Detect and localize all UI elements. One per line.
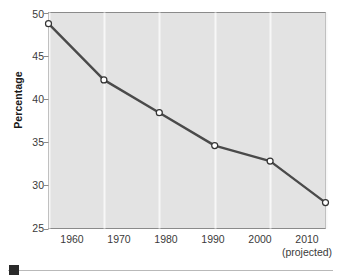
chart-figure: Percentage 50 45 40 35 30 25 1960 1970 1… bbox=[0, 0, 341, 279]
data-point-2010 bbox=[323, 200, 329, 206]
y-tick-marks bbox=[44, 14, 49, 230]
data-point-1970 bbox=[101, 77, 107, 83]
data-point-1980 bbox=[156, 110, 162, 116]
footer-divider bbox=[8, 270, 333, 271]
plot-panel bbox=[49, 13, 326, 229]
chart-plot-container: Percentage 50 45 40 35 30 25 1960 1970 1… bbox=[0, 0, 341, 256]
data-point-1960 bbox=[46, 21, 52, 27]
data-point-1990 bbox=[212, 143, 218, 149]
data-point-2000 bbox=[267, 158, 273, 164]
black-square-icon bbox=[9, 265, 19, 275]
chart-svg bbox=[0, 0, 341, 256]
